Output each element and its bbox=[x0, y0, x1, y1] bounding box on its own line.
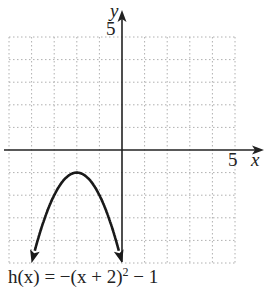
parabola-curve bbox=[35, 173, 119, 251]
y-tick-label: 5 bbox=[106, 18, 116, 40]
x-tick-label: 5 bbox=[228, 149, 238, 171]
curve-right-arrow-icon bbox=[114, 249, 124, 263]
eq-prefix: h(x) = −(x + 2) bbox=[8, 266, 122, 287]
eq-suffix: − 1 bbox=[128, 266, 158, 287]
function-label: h(x) = −(x + 2)2 − 1 bbox=[8, 265, 158, 288]
x-axis-label: x bbox=[251, 149, 259, 171]
curve-left-arrow-icon bbox=[30, 249, 40, 263]
